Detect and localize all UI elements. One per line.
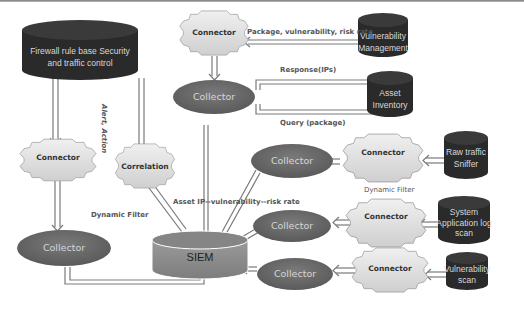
raw-traffic-label-line2: Sniffer <box>454 158 478 170</box>
firewall-label-line1: Firewall rule base Security <box>30 45 130 57</box>
firewall-label-line2: and traffic control <box>47 57 112 69</box>
connector-left-label: Connector <box>28 151 88 165</box>
edge-correlation-to-siem <box>146 181 186 232</box>
edge-label-dynamic-filter-left: Dynamic Filter <box>91 211 149 219</box>
edge-collector-asset-loop <box>256 80 372 114</box>
asset-inventory-label-line1: Asset <box>379 87 400 99</box>
edge-label-alert-action: Alert, Action <box>100 104 108 153</box>
collector-r1-label: Collector <box>251 154 333 168</box>
asset-inventory-label: Asset Inventory <box>367 84 413 114</box>
siem-label: SIEM <box>152 250 248 266</box>
edge-correlation-to-firewall <box>139 78 144 146</box>
edge-label-asset-ip-vuln-risk: Asset IP--vulnerability--risk rate <box>173 198 300 206</box>
collector-left-label: Collector <box>17 241 111 255</box>
connector-r2-label: Connector <box>356 210 416 224</box>
raw-traffic-label: Raw traffic Sniffer <box>444 143 488 173</box>
vuln-scan-label: Vulnerability scan <box>446 262 488 288</box>
collector-r3-label: Collector <box>257 267 333 281</box>
edge-connector-top-to-collector-top <box>209 56 220 80</box>
collector-r2-label: Collector <box>253 219 331 233</box>
edge-label-dynamic-filter-right: Dynamic Filter <box>364 186 414 194</box>
system-log-label: System Application log scan <box>436 203 492 243</box>
edge-label-query-package: Query (package) <box>280 119 346 127</box>
raw-traffic-label-line1: Raw traffic <box>446 146 486 158</box>
system-log-label-line2: Application log <box>436 218 491 229</box>
connector-r3-label: Connector <box>360 262 420 276</box>
correlation-label: Correlation <box>115 160 175 174</box>
system-log-label-line1: System <box>450 207 478 218</box>
edge-connector-r3-to-collector-r3 <box>333 265 355 276</box>
edge-raw-traffic-to-connector-r1 <box>423 155 445 166</box>
firewall-label: Firewall rule base Security and traffic … <box>22 40 138 74</box>
connector-r1-label: Connector <box>353 146 413 160</box>
edge-connector-left-to-collector-left <box>52 181 63 231</box>
edge-collector-top-to-siem <box>204 125 208 232</box>
edge-label-response-ips: Response(IPs) <box>280 66 336 74</box>
vuln-mgmt-label-line2: Management <box>358 42 408 54</box>
collector-top-label: Collector <box>173 90 255 104</box>
edge-label-package-vuln-risk: Package, vulnerability, risk rate <box>247 28 373 36</box>
vuln-scan-label-line2: scan <box>458 275 476 286</box>
system-log-label-line3: scan <box>455 228 473 239</box>
edge-firewall-to-connector-left <box>50 78 61 145</box>
vuln-scan-label-line1: Vulnerability <box>444 264 490 275</box>
edge-vuln-mgmt-to-connector-top <box>244 37 360 47</box>
asset-inventory-label-line2: Inventory <box>373 99 408 111</box>
connector-top-label: Connector <box>184 26 244 40</box>
